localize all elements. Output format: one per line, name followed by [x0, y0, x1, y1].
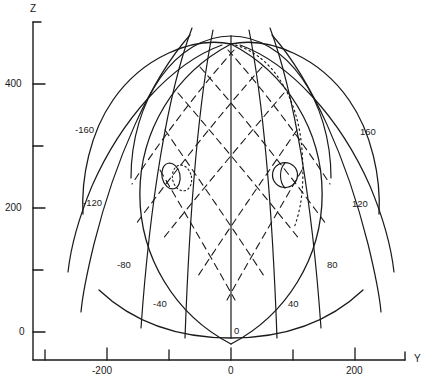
y-axis-ticks	[45, 348, 355, 360]
contour-label-0: 0	[234, 325, 239, 336]
figure-root: Z Y 400 200 0 -200 0 200 -160 -120 -80 -…	[0, 0, 439, 387]
feature-ellipses	[159, 161, 297, 192]
inner-limb-right	[231, 36, 331, 178]
y-axis-label: Y	[414, 353, 421, 364]
contour-label-160: 160	[360, 126, 376, 137]
z-axis-label: Z	[30, 3, 36, 14]
dashed-grid-a4	[165, 130, 264, 276]
outer-lobe-upper-left	[231, 42, 379, 214]
dashed-grid-b4	[198, 130, 297, 276]
right-ellipse-inner-arc	[281, 163, 286, 188]
z-tick-label-200: 200	[5, 202, 22, 213]
dashed-grid-a5	[160, 170, 235, 300]
contour-plot-svg	[0, 0, 439, 387]
axis-lines	[33, 22, 405, 360]
contour-label-120: 120	[352, 198, 368, 209]
y-tick-label-m200: -200	[92, 365, 112, 376]
z-tick-label-0: 0	[19, 326, 25, 337]
y-tick-label-0: 0	[228, 365, 234, 376]
inner-limb-left	[131, 36, 231, 178]
y-tick-label-200: 200	[346, 365, 363, 376]
meridian-m80	[141, 28, 192, 328]
z-axis-ticks	[33, 84, 45, 332]
dashed-grid-b5	[227, 170, 302, 300]
contour-label-m80: -80	[117, 259, 131, 270]
contour-label-m160: -160	[75, 124, 94, 135]
meridian-80	[270, 28, 321, 328]
right-ellipse-solid	[273, 163, 298, 188]
solid-meridians	[68, 28, 394, 338]
dotted-limb	[231, 44, 303, 228]
contour-label-m40: -40	[153, 298, 167, 309]
contour-label-80: 80	[327, 259, 338, 270]
outer-lobe-upper-right	[83, 42, 231, 214]
contour-label-m120: -120	[83, 197, 102, 208]
z-tick-label-400: 400	[5, 78, 22, 89]
dotted-terminator	[231, 44, 303, 228]
contour-label-40: 40	[288, 298, 299, 309]
